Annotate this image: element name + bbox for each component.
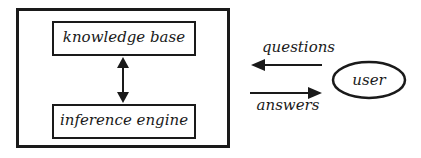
answers-label: answers [256,96,320,114]
questions-arrow-icon [251,59,322,71]
bidirectional-arrow-icon [117,57,129,103]
questions-label: questions [262,38,326,56]
user-label: user [340,71,398,89]
